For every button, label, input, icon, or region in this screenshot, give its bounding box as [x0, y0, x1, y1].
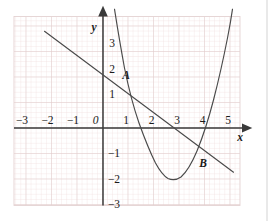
axis-label-x: x	[236, 131, 243, 143]
y-tick-1: 1	[109, 88, 115, 100]
x-tick-5: 5	[225, 114, 231, 126]
page-right-edge	[266, 0, 268, 221]
graph-figure: −3 −2 −1 0 1 2 3 4 5 3 2 1 −1 −2 −3 x y …	[0, 0, 268, 221]
x-tick--2: −2	[41, 114, 53, 126]
y-tick--1: −1	[108, 147, 120, 159]
x-tick--3: −3	[16, 114, 28, 126]
y-tick-2: 2	[109, 63, 115, 75]
x-tick-labels: −3 −2 −1 0 1 2 3 4 5	[16, 114, 231, 126]
x-tick-3: 3	[174, 114, 180, 126]
y-tick--2: −2	[108, 173, 120, 185]
x-tick-0: 0	[93, 114, 99, 126]
grid-background	[14, 17, 240, 206]
point-label-a: A	[121, 69, 130, 81]
x-tick--1: −1	[67, 114, 79, 126]
x-tick-4: 4	[200, 114, 206, 126]
x-tick-2: 2	[149, 114, 155, 126]
coordinate-plane-svg: −3 −2 −1 0 1 2 3 4 5 3 2 1 −1 −2 −3 x y …	[0, 0, 268, 221]
x-tick-1: 1	[123, 114, 129, 126]
y-tick--3: −3	[108, 198, 120, 210]
axis-label-y: y	[89, 21, 97, 34]
y-tick-3: 3	[109, 37, 115, 49]
point-label-b: B	[198, 157, 207, 169]
